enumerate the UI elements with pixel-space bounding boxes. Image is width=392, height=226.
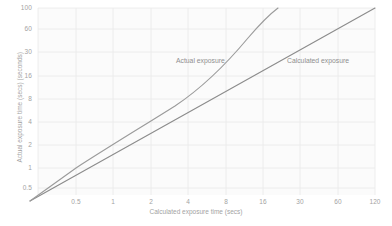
exposure-reciprocity-chart: 100 60 30 16 8 4 2 1 0.5 0.5 1 2 4 8 16 …	[0, 0, 392, 226]
x-tick-label: 0.5	[63, 199, 89, 206]
x-tick-label: 1	[100, 199, 126, 206]
x-tick-label: 60	[325, 199, 351, 206]
x-tick-label: 16	[250, 199, 276, 206]
x-tick-label: 120	[362, 199, 388, 206]
curve-label-calculated-exposure: Calculated exposure	[287, 58, 349, 65]
x-tick-label: 4	[175, 199, 201, 206]
x-axis-title: Calculated exposure time (secs)	[0, 209, 392, 216]
plot-canvas	[0, 0, 392, 226]
y-tick-label: 100	[10, 5, 32, 12]
x-tick-label: 8	[213, 199, 239, 206]
x-tick-label: 2	[138, 199, 164, 206]
x-tick-label: 30	[287, 199, 313, 206]
curve-label-actual-exposure: Actual exposure	[176, 58, 225, 65]
y-axis-title: Actual exposure time (secs) (seconds)	[17, 27, 24, 187]
